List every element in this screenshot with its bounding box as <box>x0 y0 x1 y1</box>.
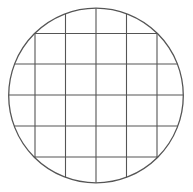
circle-grid-diagram <box>0 0 193 192</box>
grid-lines <box>0 0 193 192</box>
